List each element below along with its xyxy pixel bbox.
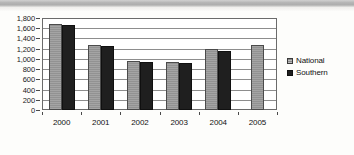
- x-axis: 200020012002200320042005: [42, 112, 277, 130]
- bar-national-2001[interactable]: [88, 45, 101, 110]
- x-axis-tick-label: 2005: [237, 118, 277, 127]
- y-axis-tick-mark: [36, 28, 40, 29]
- y-axis-tick-mark: [36, 69, 40, 70]
- x-axis-tick-label: 2004: [198, 118, 238, 127]
- y-axis-tick-mark: [36, 38, 40, 39]
- y-axis-tick-label: 800: [23, 66, 35, 73]
- y-axis-tick-mark: [36, 59, 40, 60]
- bar-group: [160, 18, 199, 110]
- bar-chart: 1,8001,6001,4001,2001,0008006004002000 2…: [0, 0, 354, 155]
- bar-national-2003[interactable]: [166, 62, 179, 110]
- y-axis-tick-label: 400: [23, 86, 35, 93]
- legend-swatch-icon: [287, 70, 293, 76]
- y-axis-tick-mark: [36, 18, 40, 19]
- legend-label: National: [296, 57, 325, 65]
- y-axis-tick-mark: [36, 90, 40, 91]
- y-axis: 1,8001,6001,4001,2001,0008006004002000: [0, 18, 40, 110]
- bar-national-2004[interactable]: [205, 49, 218, 110]
- x-axis-tick-mark: [42, 112, 43, 115]
- y-axis-tick-label: 600: [23, 76, 35, 83]
- bar-southern-2004[interactable]: [218, 51, 231, 110]
- x-axis-tick-label: 2001: [81, 118, 121, 127]
- y-axis-tick-label: 1,400: [17, 35, 35, 42]
- legend-label: Southern: [296, 69, 328, 77]
- x-axis-tick-mark: [160, 112, 161, 115]
- bar-group: [42, 18, 81, 110]
- x-axis-tick-label: 2002: [120, 118, 160, 127]
- x-axis-tick-mark: [81, 112, 82, 115]
- bar-southern-2001[interactable]: [101, 46, 114, 110]
- legend-item-national[interactable]: National: [287, 57, 328, 65]
- bar-national-2005[interactable]: [251, 45, 264, 110]
- y-axis-tick-label: 1,600: [17, 25, 35, 32]
- x-axis-tick-label: 2003: [159, 118, 199, 127]
- bar-national-2000[interactable]: [49, 24, 62, 110]
- bar-southern-2003[interactable]: [179, 63, 192, 110]
- bar-group: [81, 18, 120, 110]
- y-axis-tick-label: 1,800: [17, 15, 35, 22]
- y-axis-tick-label: 0: [31, 107, 35, 114]
- bar-group: [199, 18, 238, 110]
- y-axis-tick-mark: [36, 79, 40, 80]
- y-axis-tick-label: 1,200: [17, 45, 35, 52]
- chart-legend: NationalSouthern: [287, 57, 328, 77]
- bar-groups: [42, 18, 277, 110]
- x-axis-tick-mark: [199, 112, 200, 115]
- y-axis-tick-label: 1,000: [17, 55, 35, 62]
- legend-item-southern[interactable]: Southern: [287, 69, 328, 77]
- y-axis-tick-label: 200: [23, 96, 35, 103]
- x-axis-tick-mark: [238, 112, 239, 115]
- bar-southern-2002[interactable]: [140, 62, 153, 110]
- legend-swatch-icon: [287, 58, 293, 64]
- y-axis-tick-mark: [36, 100, 40, 101]
- x-axis-tick-mark: [277, 112, 278, 115]
- x-axis-tick-label: 2000: [42, 118, 82, 127]
- bar-southern-2000[interactable]: [62, 25, 75, 110]
- bar-national-2002[interactable]: [127, 61, 140, 110]
- bar-group: [238, 18, 277, 110]
- bar-group: [120, 18, 159, 110]
- y-axis-tick-mark: [36, 49, 40, 50]
- x-axis-tick-mark: [120, 112, 121, 115]
- y-axis-tick-mark: [36, 110, 40, 111]
